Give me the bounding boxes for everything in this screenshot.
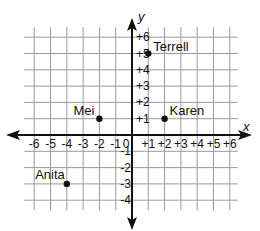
point-label-terrell: Terrell (153, 39, 189, 54)
y-tick-label: -2 (120, 161, 131, 175)
point-terrell (145, 50, 151, 56)
y-tick-label: +2 (136, 95, 150, 109)
x-tick-label: -3 (78, 137, 89, 151)
x-tick-label: +2 (158, 137, 172, 151)
point-label-mei: Mei (73, 103, 94, 118)
x-tick-label: -4 (61, 137, 72, 151)
x-tick-label: +3 (174, 137, 188, 151)
coordinate-plane: xy -6-5-4-3-2-10+1+2+3+4+5+6+6+5+4+3+2+1… (0, 0, 260, 231)
point-mei (96, 116, 102, 122)
x-tick-label: -2 (94, 137, 105, 151)
x-tick-label: +6 (223, 137, 237, 151)
point-karen (161, 116, 167, 122)
y-tick-label: -4 (120, 193, 131, 207)
y-tick-label: +4 (136, 63, 150, 77)
x-axis-label: x (242, 119, 250, 134)
x-tick-label: +1 (141, 137, 155, 151)
x-tick-label: -5 (45, 137, 56, 151)
point-label-anita: Anita (35, 167, 65, 182)
y-tick-label: -1 (120, 144, 131, 158)
y-tick-label: +1 (136, 112, 150, 126)
y-tick-label: +6 (136, 30, 150, 44)
x-tick-label: +4 (190, 137, 204, 151)
point-label-karen: Karen (170, 103, 205, 118)
y-axis-label: y (137, 9, 146, 24)
y-tick-label: +3 (136, 79, 150, 93)
y-tick-label: -3 (120, 177, 131, 191)
x-tick-label: -6 (29, 137, 40, 151)
x-tick-label: +5 (207, 137, 221, 151)
